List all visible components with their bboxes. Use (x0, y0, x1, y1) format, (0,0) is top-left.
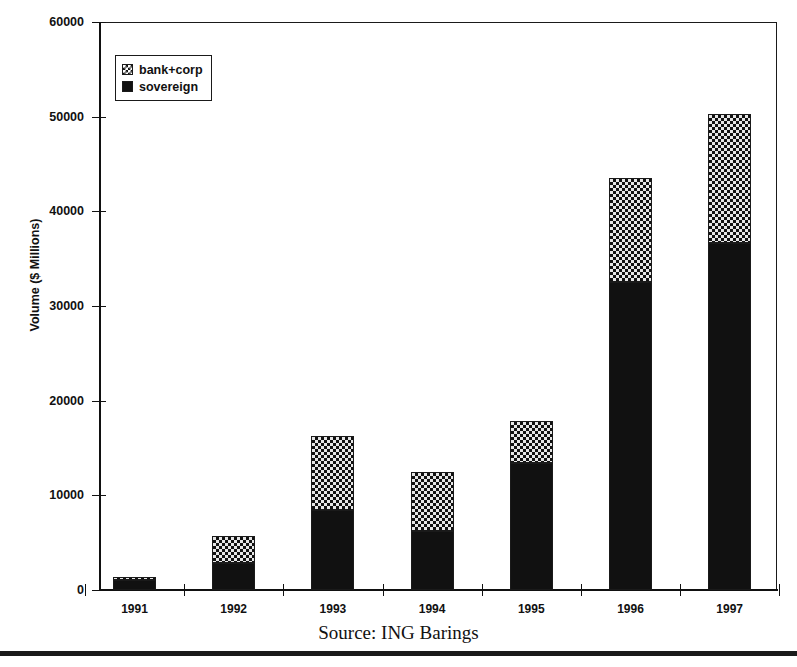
y-axis-tick-label: 40000 (28, 204, 84, 218)
x-axis-tick-label: 1994 (392, 602, 472, 616)
x-axis-tick-mark (680, 584, 681, 596)
x-axis-tick-mark (779, 584, 780, 596)
bar-segment-sovereign (311, 510, 354, 590)
bar-segment-sovereign (411, 531, 454, 590)
y-axis-tick-label: 60000 (28, 15, 84, 29)
bar-segment-bank-corp (311, 436, 354, 510)
bar-segment-bank-corp (708, 114, 751, 243)
y-axis-tick-label: 10000 (28, 488, 84, 502)
y-axis-tick-mark (92, 495, 106, 496)
bar-segment-bank-corp (411, 472, 454, 532)
y-axis-tick-label: 20000 (28, 394, 84, 408)
x-axis-tick-label: 1992 (194, 602, 274, 616)
y-axis-tick-label: 50000 (28, 110, 84, 124)
y-axis-tick-mark (92, 401, 106, 402)
y-axis-tick-mark (92, 22, 106, 23)
chart-figure: Volume ($ Millions) 01000020000300004000… (0, 0, 797, 667)
x-axis-tick-mark (184, 584, 185, 596)
y-axis-tick-label: 0 (28, 583, 84, 597)
bar-segment-bank-corp (510, 421, 553, 463)
bar-column-1995 (510, 421, 553, 590)
x-axis-tick-label: 1993 (293, 602, 373, 616)
bar-segment-sovereign (212, 563, 255, 590)
y-axis-tick-label: 30000 (28, 299, 84, 313)
bottom-rule-divider (0, 651, 797, 656)
bar-segment-bank-corp (212, 536, 255, 563)
y-axis-tick-mark (92, 590, 106, 591)
legend-item-bank-corp: bank+corp (122, 61, 203, 78)
legend-swatch-bank-corp-icon (122, 64, 133, 75)
bar-segment-sovereign (609, 282, 652, 590)
x-axis-tick-mark (482, 584, 483, 596)
cropped-title-remnant (0, 0, 797, 2)
legend-item-sovereign: sovereign (122, 78, 203, 95)
x-axis-tick-mark (85, 584, 86, 596)
y-axis-tick-mark (92, 306, 106, 307)
bar-column-1992 (212, 536, 255, 590)
chart-legend: bank+corp sovereign (115, 55, 212, 101)
x-axis-tick-mark (283, 584, 284, 596)
bar-segment-sovereign (113, 580, 156, 590)
bar-segment-sovereign (708, 243, 751, 590)
bar-column-1991 (113, 577, 156, 590)
bar-column-1993 (311, 436, 354, 590)
legend-label-sovereign: sovereign (139, 80, 198, 94)
x-axis-tick-label: 1995 (491, 602, 571, 616)
legend-swatch-sovereign-icon (122, 81, 133, 92)
bar-segment-bank-corp (609, 178, 652, 282)
x-axis-tick-mark (383, 584, 384, 596)
bar-segment-sovereign (510, 463, 553, 590)
x-axis-tick-label: 1991 (95, 602, 175, 616)
y-axis-tick-mark (92, 117, 106, 118)
legend-label-bank-corp: bank+corp (139, 63, 203, 77)
source-caption: Source: ING Barings (0, 622, 797, 644)
x-axis-tick-label: 1996 (591, 602, 671, 616)
y-axis-tick-mark (92, 211, 106, 212)
x-axis-tick-label: 1997 (690, 602, 770, 616)
bar-column-1994 (411, 472, 454, 590)
bar-column-1996 (609, 178, 652, 590)
bar-column-1997 (708, 114, 751, 590)
x-axis-tick-mark (581, 584, 582, 596)
